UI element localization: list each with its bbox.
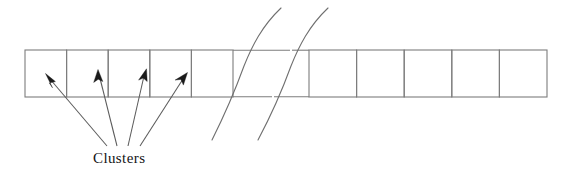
diagram-canvas: Clusters xyxy=(0,0,573,174)
arrowhead xyxy=(175,73,187,86)
right-cell-group xyxy=(274,50,547,97)
cluster-cell xyxy=(452,50,500,97)
cluster-arrow-1 xyxy=(46,74,108,147)
cluster-arrow-4 xyxy=(140,73,188,147)
leader-line xyxy=(140,79,183,146)
leader-line xyxy=(128,76,144,146)
left-cell-group xyxy=(25,50,290,97)
cluster-cell xyxy=(404,50,452,97)
cluster-row-diagram: Clusters xyxy=(0,0,573,174)
cluster-cell xyxy=(67,50,109,97)
arrowhead xyxy=(46,74,56,88)
cluster-cell xyxy=(499,50,547,97)
cluster-cell xyxy=(191,50,233,97)
clusters-label: Clusters xyxy=(93,150,145,166)
break-curve-right-icon xyxy=(258,8,328,140)
leader-line xyxy=(50,79,107,146)
cluster-arrow-3 xyxy=(128,69,147,146)
cluster-cell xyxy=(309,50,357,97)
cluster-cell xyxy=(357,50,405,97)
break-curve-left-icon xyxy=(212,8,281,140)
cluster-cell xyxy=(150,50,192,97)
arrowhead xyxy=(94,70,103,83)
